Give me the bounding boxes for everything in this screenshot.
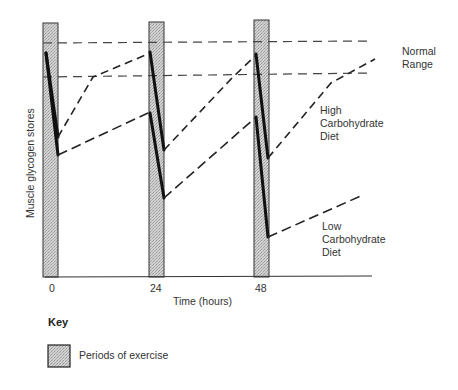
normal-range-upper [43,41,372,43]
normal-range-lower [43,73,372,77]
high-carb-annotation: High Carbohydrate Diet [320,104,384,142]
low-carb-annotation: Low Carbohydrate Diet [322,220,386,258]
tick-48: 48 [255,282,267,294]
svg-text:Range: Range [402,58,433,70]
key-exercise-label: Periods of exercise [79,349,168,361]
svg-text:Diet: Diet [320,130,339,142]
x-axis [45,276,372,277]
svg-text:Carbohydrate: Carbohydrate [322,233,386,245]
x-axis-label: Time (hours) [173,295,232,307]
tick-0: 0 [49,282,55,294]
svg-text:High: High [320,104,342,116]
key-title: Key [48,316,69,328]
svg-text:Low: Low [322,220,342,232]
tick-24: 24 [150,282,162,294]
svg-text:Carbohydrate: Carbohydrate [320,117,384,129]
svg-text:Normal: Normal [402,45,436,57]
key-exercise-swatch [48,345,70,367]
normal-range-lines [43,41,372,77]
svg-text:Diet: Diet [322,246,341,258]
y-axis-label: Muscle glycogen stores [24,108,36,218]
low-carb-series [58,113,363,237]
exercise-bar-0h [43,23,58,277]
glycogen-diagram: 0 24 48 Time (hours) Muscle glycogen sto… [0,0,458,390]
normal-range-annotation: Normal Range [402,45,436,70]
